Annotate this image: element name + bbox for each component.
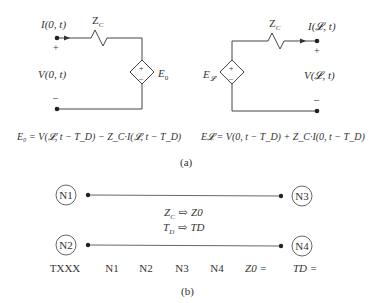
minus-sign-left: – xyxy=(52,92,59,103)
voltage-label-left: V(0, t) xyxy=(38,68,66,81)
transmission-line-model-figure: I(0, t) ZC + V(0, t) – + – E0 ZC I(𝓛, t)… xyxy=(0,0,377,303)
node-dot xyxy=(86,193,90,197)
syntax-n2: N2 xyxy=(139,262,152,274)
syntax-n3: N3 xyxy=(175,262,189,274)
terminal-dot-in-top xyxy=(55,36,60,41)
mapping-td-td: TD⇨TD xyxy=(163,221,205,236)
current-label-left: I(0, t) xyxy=(40,18,66,31)
terminal-dot-out-top xyxy=(315,39,320,44)
plus-sign-right: + xyxy=(314,45,320,56)
equation-e0: E₀ = V(𝓛, t − T_D) − Z_C·I(𝓛, t − T_D) xyxy=(16,131,182,143)
syntax-n1: N1 xyxy=(105,262,118,274)
source-label-e0: E0 xyxy=(157,67,169,82)
node-label-n2: N2 xyxy=(59,239,72,251)
conductor-top xyxy=(88,195,281,196)
source-plus-right: + xyxy=(229,64,234,73)
node-label-n4: N4 xyxy=(295,240,309,252)
node-dot xyxy=(86,243,90,247)
syntax-td: TD = xyxy=(293,262,317,274)
syntax-n4: N4 xyxy=(210,262,224,274)
voltage-label-right: V(𝓛, t) xyxy=(304,69,335,82)
node-label-n1: N1 xyxy=(59,189,72,201)
syntax-z0: Z0 = xyxy=(245,262,267,274)
mapping-zc-z0: ZC⇨Z0 xyxy=(164,206,203,221)
right-circuit xyxy=(220,33,317,111)
equation-el: E𝓛 = V(0, t − T_D) + Z_C·I(0, t − T_D) xyxy=(200,131,365,143)
source-minus-left: – xyxy=(138,74,144,83)
caption-b: (b) xyxy=(181,285,194,298)
syntax-txxx: TXXX xyxy=(50,262,81,274)
node-label-n3: N3 xyxy=(295,190,309,202)
terminal-dot-out-bottom xyxy=(315,109,320,114)
caption-a: (a) xyxy=(180,156,193,169)
impedance-label-right: ZC xyxy=(269,17,281,32)
source-minus-right: – xyxy=(228,74,234,83)
current-arrow-icon xyxy=(300,39,306,44)
conductor-bottom xyxy=(88,245,281,246)
minus-sign-right: – xyxy=(313,94,320,105)
node-dot xyxy=(279,244,283,248)
node-dot xyxy=(279,194,283,198)
current-arrow-icon xyxy=(64,36,70,41)
terminal-dot-in-bottom xyxy=(55,107,60,112)
source-plus-left: + xyxy=(139,64,144,73)
impedance-label-left: ZC xyxy=(92,14,104,29)
source-label-el: E𝓛 xyxy=(202,68,217,83)
plus-sign-left: + xyxy=(53,42,59,53)
current-label-right: I(𝓛, t) xyxy=(307,20,336,33)
